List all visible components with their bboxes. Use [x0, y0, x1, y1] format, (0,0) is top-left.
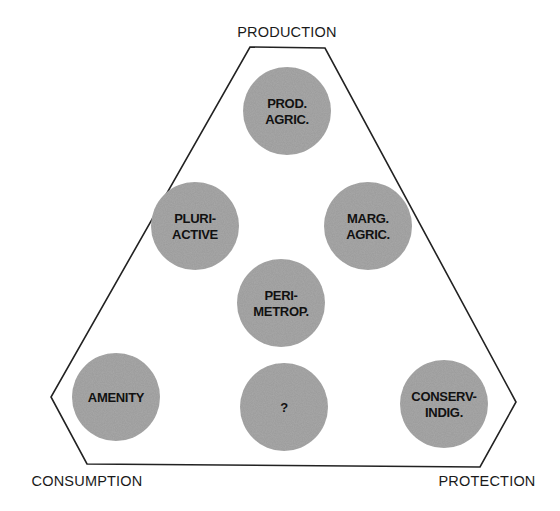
corner-label-protection: PROTECTION — [438, 473, 535, 489]
node-unknown: ? — [240, 363, 328, 451]
node-pluri-active: PLURI-ACTIVE — [151, 182, 239, 270]
node-perimetrop: PERI-METROP. — [237, 259, 325, 347]
node-label: MARG. — [347, 211, 389, 226]
node-label: METROP. — [253, 304, 308, 319]
node-label: AMENITY — [88, 390, 145, 405]
node-marg-agric: MARG.AGRIC. — [324, 182, 412, 270]
node-label: PLURI- — [174, 211, 216, 226]
node-label: INDIG. — [425, 405, 463, 420]
node-group: PROD.AGRIC.PLURI-ACTIVEMARG.AGRIC.PERI-M… — [72, 67, 488, 451]
node-label: ? — [280, 400, 288, 415]
node-label: AGRIC. — [265, 112, 309, 127]
node-prod-agric: PROD.AGRIC. — [243, 67, 331, 155]
corner-label-consumption: CONSUMPTION — [32, 473, 143, 489]
corner-label-production: PRODUCTION — [237, 24, 336, 40]
node-label: ACTIVE — [172, 227, 219, 242]
node-conserv-indig: CONSERV-INDIG. — [400, 360, 488, 448]
node-label: PROD. — [267, 96, 307, 111]
node-label: PERI- — [264, 288, 297, 303]
typology-diagram: PRODUCTION CONSUMPTION PROTECTION PROD.A… — [0, 0, 560, 511]
node-label: CONSERV- — [411, 389, 476, 404]
node-amenity: AMENITY — [72, 353, 160, 441]
node-label: AGRIC. — [346, 227, 390, 242]
